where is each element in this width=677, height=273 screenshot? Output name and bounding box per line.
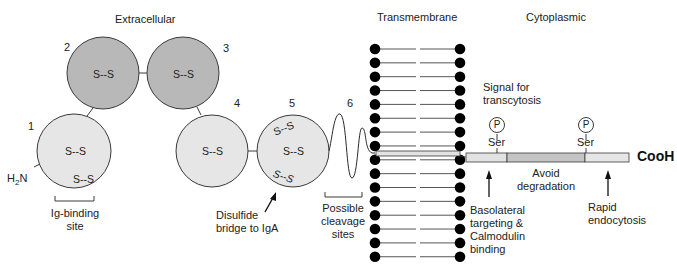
domain-2-number: 2 bbox=[64, 41, 70, 53]
basolateral-targeting-label: Basolateral targeting & Calmodulin bindi… bbox=[470, 204, 525, 256]
cleavage-line-1: Possible bbox=[318, 202, 368, 215]
n-terminus-n: N bbox=[19, 172, 27, 184]
basolateral-arrow-head bbox=[486, 170, 492, 179]
phospho-1-label: P bbox=[491, 118, 503, 131]
lipid-row bbox=[370, 44, 466, 55]
lipid-head-inner bbox=[455, 58, 466, 69]
linker-1-2 bbox=[87, 108, 93, 116]
ig-binding-bracket bbox=[55, 196, 94, 201]
ig-binding-line-2: site bbox=[44, 220, 106, 233]
lipid-row bbox=[370, 99, 466, 110]
cleavage-bracket bbox=[325, 192, 362, 197]
lipid-row bbox=[370, 224, 466, 235]
signal-line-2: transcytosis bbox=[483, 94, 541, 107]
lipid-head-outer bbox=[370, 141, 381, 152]
cleavage-line-3: sites bbox=[318, 228, 368, 241]
lipid-row bbox=[370, 113, 466, 124]
ig-binding-label: Ig-binding site bbox=[44, 207, 106, 233]
lipid-head-inner bbox=[455, 168, 466, 179]
domain-1-disulfide-b: S--S bbox=[73, 173, 94, 185]
lipid-head-outer bbox=[370, 85, 381, 96]
domain-3-number: 3 bbox=[223, 42, 229, 54]
lipid-head-inner bbox=[455, 113, 466, 124]
lipid-head-outer bbox=[370, 58, 381, 69]
lipid-head-inner bbox=[455, 182, 466, 193]
lipid-head-inner bbox=[455, 224, 466, 235]
tail-segment-avoid-degradation bbox=[507, 153, 585, 162]
lipid-head-inner bbox=[455, 99, 466, 110]
cleavage-line-2: cleavage bbox=[318, 215, 368, 228]
domain-4-number: 4 bbox=[234, 97, 240, 109]
lipid-head-outer bbox=[370, 182, 381, 193]
c-terminus-label: CooH bbox=[637, 148, 674, 164]
lipid-head-outer bbox=[370, 127, 381, 138]
lipid-head-inner bbox=[455, 141, 466, 152]
lipid-row bbox=[370, 251, 466, 262]
lipid-head-inner bbox=[455, 127, 466, 138]
domain-3-disulfide: S--S bbox=[173, 68, 194, 80]
lipid-row bbox=[370, 141, 466, 152]
rapid-line-2: endocytosis bbox=[588, 214, 646, 227]
pigr-structure-diagram: Extracellular Transmembrane Cytoplasmic … bbox=[0, 0, 677, 273]
domain-1-number: 1 bbox=[28, 120, 34, 132]
tail-segment-endocytosis bbox=[585, 153, 629, 162]
lipid-row bbox=[370, 182, 466, 193]
lipid-head-outer bbox=[370, 196, 381, 207]
lipid-head-outer bbox=[370, 168, 381, 179]
disulfide-line-2: bridge to IgA bbox=[216, 222, 278, 235]
endocytosis-arrow-head bbox=[605, 170, 611, 179]
n-terminus-label: H2N bbox=[7, 172, 27, 189]
domain-6-stalk bbox=[329, 114, 375, 178]
n-terminus-h: H bbox=[7, 172, 15, 184]
domain-1-disulfide-a: S--S bbox=[65, 145, 86, 157]
lipid-row bbox=[370, 196, 466, 207]
basolateral-line-4: binding bbox=[470, 243, 525, 256]
ig-binding-line-1: Ig-binding bbox=[44, 207, 106, 220]
linker-3-4 bbox=[197, 107, 201, 115]
basolateral-line-3: Calmodulin bbox=[470, 230, 525, 243]
domain-4-disulfide: S--S bbox=[202, 145, 223, 157]
avoid-line-2: degradation bbox=[514, 180, 578, 193]
signal-transcytosis-label: Signal for transcytosis bbox=[483, 81, 541, 107]
lipid-head-outer bbox=[370, 238, 381, 249]
lipid-head-outer bbox=[370, 210, 381, 221]
region-transmembrane: Transmembrane bbox=[377, 11, 457, 24]
transmembrane-helix bbox=[376, 151, 460, 156]
lipid-row bbox=[370, 168, 466, 179]
lipid-head-outer bbox=[370, 224, 381, 235]
avoid-line-1: Avoid bbox=[514, 167, 578, 180]
lipid-row bbox=[370, 58, 466, 69]
cleavage-sites-label: Possible cleavage sites bbox=[318, 202, 368, 241]
rapid-endocytosis-label: Rapid endocytosis bbox=[588, 201, 646, 227]
lipid-row bbox=[370, 238, 466, 249]
domain-6-number: 6 bbox=[347, 97, 353, 109]
ser-1-label: Ser bbox=[488, 136, 505, 149]
avoid-degradation-label: Avoid degradation bbox=[514, 167, 578, 193]
tail-segment-basolateral bbox=[466, 153, 507, 162]
ser-2-label: Ser bbox=[577, 136, 594, 149]
region-extracellular: Extracellular bbox=[115, 13, 176, 26]
lipid-head-outer bbox=[370, 71, 381, 82]
lipid-head-inner bbox=[455, 71, 466, 82]
disulfide-arrow-head bbox=[270, 192, 276, 201]
disulfide-line-1: Disulfide bbox=[216, 209, 278, 222]
domain-2-disulfide: S--S bbox=[93, 68, 114, 80]
lipid-head-outer bbox=[370, 44, 381, 55]
lipid-row bbox=[370, 85, 466, 96]
phospho-2-label: P bbox=[580, 118, 592, 131]
disulfide-bridge-label: Disulfide bridge to IgA bbox=[216, 209, 278, 235]
lipid-row bbox=[370, 210, 466, 221]
basolateral-line-1: Basolateral bbox=[470, 204, 525, 217]
rapid-line-1: Rapid bbox=[588, 201, 646, 214]
lipid-head-outer bbox=[370, 251, 381, 262]
domain-5-disulfide-b: S--S bbox=[283, 145, 304, 157]
lipid-head-inner bbox=[455, 238, 466, 249]
region-cytoplasmic: Cytoplasmic bbox=[526, 11, 586, 24]
lipid-head-inner bbox=[455, 196, 466, 207]
lipid-row bbox=[370, 127, 466, 138]
lipid-head-outer bbox=[370, 113, 381, 124]
lipid-head-inner bbox=[455, 251, 466, 262]
basolateral-line-2: targeting & bbox=[470, 217, 525, 230]
lipid-row bbox=[370, 71, 466, 82]
lipid-head-inner bbox=[455, 44, 466, 55]
